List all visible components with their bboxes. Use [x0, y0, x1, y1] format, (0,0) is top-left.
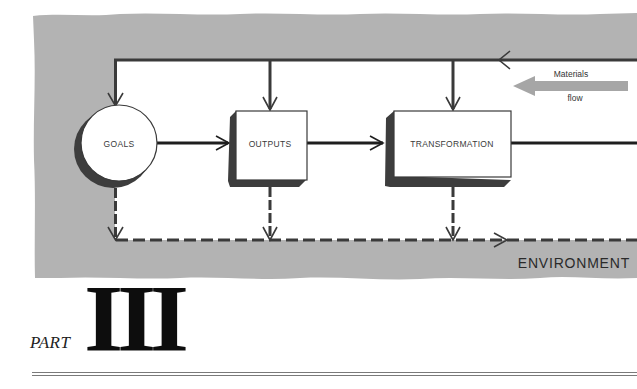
outputs-label: OUTPUTS: [249, 139, 292, 149]
environment-label: ENVIRONMENT: [518, 255, 630, 271]
transformation-label: TRANSFORMATION: [410, 139, 493, 149]
materials-flow-label-line1: Materials: [554, 69, 588, 79]
goals-label: GOALS: [104, 139, 135, 149]
part-label: PART: [30, 333, 70, 353]
part-number: III: [84, 271, 183, 367]
materials-flow-label-line2: flow: [567, 93, 583, 103]
heading-rule-bottom: [32, 375, 637, 376]
heading-rule-top: [32, 372, 637, 373]
